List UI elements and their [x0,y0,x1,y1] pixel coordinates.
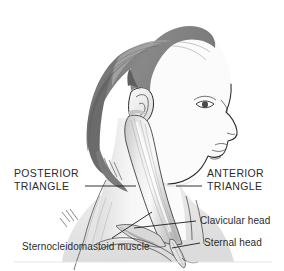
posterior-triangle-label-line2: TRIANGLE [14,180,69,192]
neck-anatomy-illustration: POSTERIOR TRIANGLE ANTERIOR TRIANGLE Cla… [0,0,284,271]
clavicular-head-label: Clavicular head [200,215,270,226]
posterior-triangle-label-line1: POSTERIOR [14,167,79,179]
anatomical-figure: POSTERIOR TRIANGLE ANTERIOR TRIANGLE Cla… [0,0,284,271]
anterior-triangle-label-line1: ANTERIOR [207,167,264,179]
anterior-triangle-label-line2: TRIANGLE [207,180,262,192]
iris [202,101,208,107]
sternocleidomastoid-label: Sternocleidomastoid muscle [22,241,150,252]
sternal-head-label: Sternal head [204,237,262,248]
